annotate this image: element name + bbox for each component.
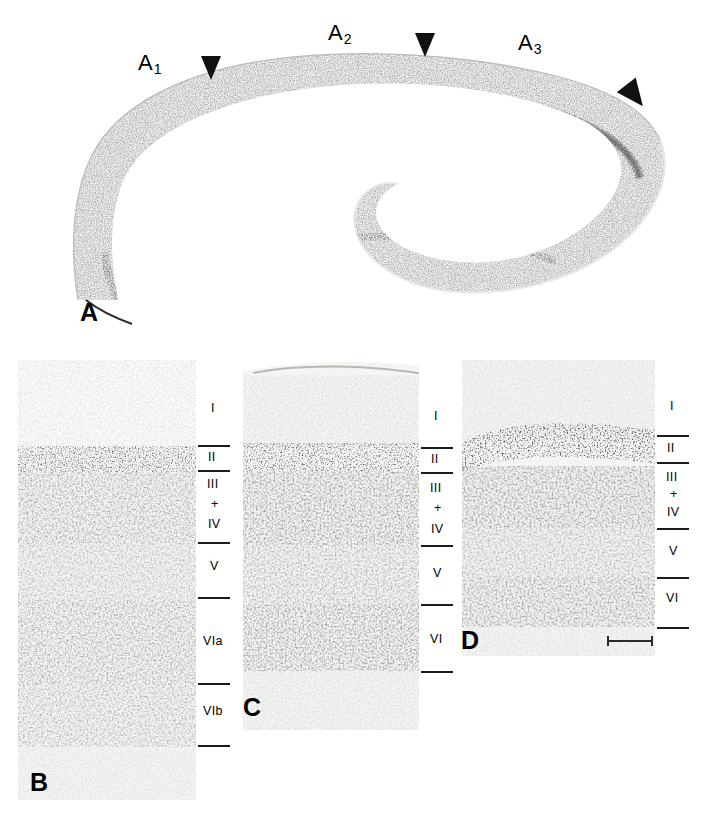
- panel-a-overview: A1 A2 A3 A: [0, 0, 703, 340]
- panel-b-layer-label-vib: VIb: [203, 705, 223, 718]
- panel-b-layer-label-iii: III: [207, 478, 219, 491]
- panel-b-layer-column: I II III + IV V VIa VIb: [196, 360, 236, 800]
- panel-c-layer-column: I II III + IV V VI: [419, 355, 459, 730]
- panel-b-layer-label-iv: IV: [208, 518, 221, 531]
- panel-b-micrograph: [18, 360, 215, 800]
- panel-d-layer-label-iii: III: [666, 471, 678, 484]
- panel-b-tick: [198, 542, 230, 544]
- panel-letter-a: A: [80, 300, 98, 325]
- panel-c-layer-label-vi: VI: [430, 633, 443, 646]
- panel-d-tick: [657, 577, 689, 579]
- panel-c-tissue: [243, 355, 439, 730]
- panel-d-layer-label-plus: +: [670, 488, 678, 501]
- panel-c-tick: [421, 671, 453, 673]
- panel-d-tick: [657, 528, 689, 530]
- panel-c-layer-label-plus: +: [434, 502, 442, 515]
- panel-b-layer-label-plus: +: [211, 498, 219, 511]
- panel-d-tick: [657, 435, 689, 437]
- figure-root: A1 A2 A3 A: [0, 0, 703, 815]
- panel-d-layer-label-v: V: [669, 545, 678, 558]
- panel-d-tick: [657, 462, 689, 464]
- region-label-a1: A1: [138, 52, 160, 74]
- panel-c-tick: [421, 545, 453, 547]
- panel-letter-b: B: [30, 770, 48, 795]
- panel-d-tissue: [462, 360, 658, 656]
- panel-b-tick: [198, 745, 230, 747]
- panel-c-tick: [421, 447, 453, 449]
- panel-b-layer-label-v: V: [210, 560, 219, 573]
- region-label-a3: A3: [518, 32, 540, 54]
- panel-c-tick: [421, 472, 453, 474]
- panel-c-layer-label-i: I: [434, 410, 438, 423]
- panel-letter-d: D: [461, 628, 479, 653]
- panel-b-tick: [198, 445, 230, 447]
- panel-c-layer-label-ii: II: [431, 453, 439, 466]
- panel-d-layer-label-ii: II: [667, 442, 675, 455]
- panel-c-layer-label-iv: IV: [431, 523, 444, 536]
- panel-d-layer-label-vi: VI: [666, 592, 679, 605]
- panel-d-layer-label-iv: IV: [667, 506, 680, 519]
- panel-d-layer-column: I II III + IV V VI: [655, 360, 699, 656]
- panel-b-tick: [198, 470, 230, 472]
- panel-b-layer-label-ii: II: [208, 451, 216, 464]
- panel-d-tick: [657, 627, 689, 629]
- region-label-a2: A2: [328, 22, 350, 44]
- panel-c-micrograph: [243, 355, 439, 730]
- panel-b-tick: [198, 683, 230, 685]
- panel-b-layer-label-via: VIa: [203, 635, 223, 648]
- panel-b-tissue: [18, 360, 215, 800]
- panel-a-tissue-body: [0, 0, 703, 340]
- panel-b-tick: [198, 597, 230, 599]
- scale-bar-cap-right: [651, 636, 653, 646]
- panel-b-layer-label-i: I: [211, 402, 215, 415]
- panel-letter-c: C: [243, 695, 261, 720]
- panel-d-micrograph: [462, 360, 658, 656]
- panel-c-layer-label-v: V: [433, 567, 442, 580]
- panel-d-layer-label-i: I: [670, 400, 674, 413]
- scale-bar: [607, 636, 653, 646]
- scale-bar-line: [607, 640, 653, 642]
- panel-c-tick: [421, 604, 453, 606]
- panel-c-layer-label-iii: III: [430, 482, 442, 495]
- panel-a-micrograph: [0, 0, 703, 340]
